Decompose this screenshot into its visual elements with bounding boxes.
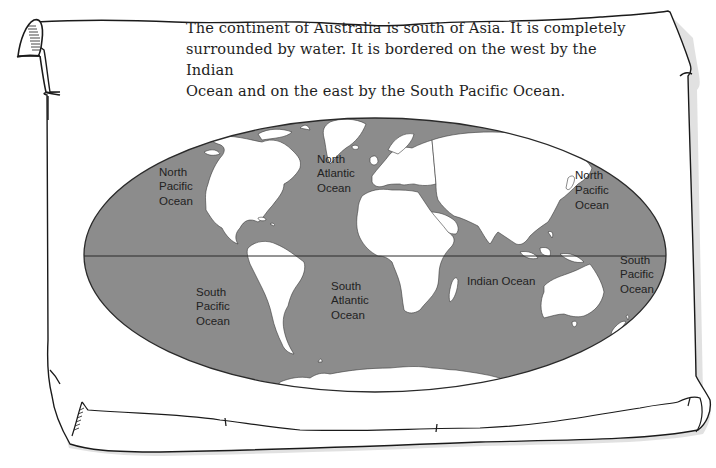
label-south-pacific-west: South Pacific Ocean xyxy=(196,286,233,327)
label-indian-ocean: Indian Ocean xyxy=(467,275,535,287)
caption-line-2: surrounded by water. It is bordered on t… xyxy=(186,38,626,80)
scroll-map-page: North Pacific Ocean North Atlantic Ocean… xyxy=(0,0,716,468)
caption-line-3: Ocean and on the east by the South Pacif… xyxy=(186,80,626,101)
caption-line-1: The continent of Australia is south of A… xyxy=(186,17,626,38)
caption-paragraph: The continent of Australia is south of A… xyxy=(186,17,626,101)
label-south-pacific-east: South Pacific Ocean xyxy=(620,254,657,295)
